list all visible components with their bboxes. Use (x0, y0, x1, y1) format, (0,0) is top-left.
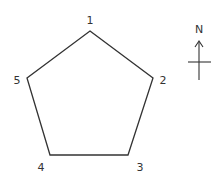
pentagon-diagram: 1 2 3 4 5 N (0, 0, 213, 178)
vertex-label-2: 2 (160, 74, 167, 87)
vertex-label-1: 1 (87, 14, 94, 27)
diagram-svg: 1 2 3 4 5 N (0, 0, 213, 178)
north-arrow-icon: N (188, 23, 211, 80)
vertex-label-5: 5 (14, 74, 21, 87)
compass-north-label: N (195, 23, 203, 36)
vertex-label-3: 3 (137, 161, 144, 174)
vertex-label-4: 4 (38, 161, 45, 174)
pentagon-shape (27, 31, 153, 155)
